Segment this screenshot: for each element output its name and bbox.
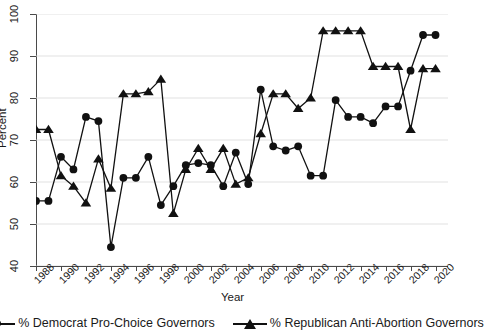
chart-legend: % Democrat Pro-Choice Governors % Republ… bbox=[0, 312, 465, 334]
circle-marker-icon bbox=[219, 182, 227, 190]
legend-item-democrat: % Democrat Pro-Choice Governors bbox=[0, 317, 215, 330]
legend-swatch-line bbox=[0, 317, 15, 330]
circle-marker-icon bbox=[394, 103, 402, 111]
y-tick-label: 50 bbox=[2, 218, 26, 230]
triangle-marker-icon bbox=[56, 171, 67, 179]
circle-marker-icon bbox=[257, 86, 265, 94]
y-tick-label: 100 bbox=[2, 8, 26, 20]
circle-marker-icon bbox=[282, 147, 290, 155]
circle-marker-icon bbox=[382, 103, 390, 111]
circle-marker-icon bbox=[407, 67, 415, 75]
circle-marker-icon bbox=[119, 174, 127, 182]
circle-marker-icon bbox=[357, 113, 365, 121]
circle-marker-icon bbox=[319, 172, 327, 180]
triangle-marker-icon bbox=[81, 198, 92, 206]
circle-marker-icon bbox=[57, 153, 65, 161]
circle-marker-icon bbox=[344, 113, 352, 121]
circle-marker-icon bbox=[369, 119, 377, 127]
y-tick-label: 40 bbox=[2, 260, 26, 272]
circle-marker-icon bbox=[244, 180, 252, 188]
triangle-marker-icon bbox=[168, 209, 179, 217]
legend-item-republican: % Republican Anti-Abortion Governors bbox=[233, 317, 484, 330]
circle-marker-icon bbox=[157, 201, 165, 209]
circle-marker-icon bbox=[144, 153, 152, 161]
series-canvas bbox=[36, 14, 448, 266]
circle-marker-icon bbox=[70, 166, 78, 174]
circle-marker-icon bbox=[82, 113, 90, 121]
x-axis-title: Year bbox=[0, 291, 465, 303]
circle-marker-icon bbox=[36, 197, 40, 205]
y-tick-label: 70 bbox=[2, 134, 26, 146]
circle-marker-icon bbox=[194, 159, 202, 167]
circle-marker-icon bbox=[0, 319, 1, 328]
circle-marker-icon bbox=[232, 149, 240, 157]
circle-marker-icon bbox=[45, 197, 53, 205]
circle-marker-icon bbox=[332, 96, 340, 104]
circle-marker-icon bbox=[95, 117, 103, 125]
y-tick-label: 80 bbox=[2, 92, 26, 104]
circle-marker-icon bbox=[132, 174, 140, 182]
circle-marker-icon bbox=[294, 142, 302, 150]
triangle-marker-icon bbox=[193, 144, 204, 152]
legend-label: % Democrat Pro-Choice Governors bbox=[15, 317, 215, 330]
plot-area bbox=[36, 14, 448, 266]
triangle-marker-icon bbox=[305, 93, 316, 101]
circle-marker-icon bbox=[419, 31, 427, 39]
y-tick-label: 90 bbox=[2, 50, 26, 62]
circle-marker-icon bbox=[107, 243, 115, 251]
y-tick-label: 60 bbox=[2, 176, 26, 188]
triangle-marker-icon bbox=[405, 125, 416, 133]
triangle-marker-icon bbox=[255, 129, 266, 137]
triangle-marker-icon bbox=[218, 144, 229, 152]
triangle-marker-icon bbox=[156, 74, 167, 82]
circle-marker-icon bbox=[307, 172, 315, 180]
triangle-marker-icon bbox=[230, 179, 241, 187]
triangle-marker-icon bbox=[106, 184, 117, 192]
circle-marker-icon bbox=[432, 31, 440, 39]
circle-marker-icon bbox=[269, 142, 277, 150]
triangle-marker-icon bbox=[244, 319, 256, 329]
legend-label: % Republican Anti-Abortion Governors bbox=[267, 317, 484, 330]
legend-swatch-line bbox=[233, 317, 267, 330]
